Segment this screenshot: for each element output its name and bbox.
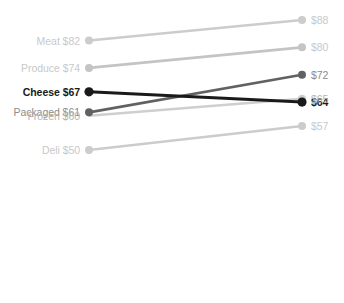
slope-line-meat[interactable] bbox=[89, 20, 302, 41]
slope-lines-layer bbox=[89, 20, 302, 150]
slope-dot-start-produce[interactable] bbox=[85, 64, 93, 72]
slope-label-left-cheese: Cheese $67 bbox=[23, 86, 80, 97]
slope-line-deli[interactable] bbox=[89, 126, 302, 150]
slope-dot-end-cheese[interactable] bbox=[297, 98, 306, 107]
slope-label-left-meat: Meat $82 bbox=[37, 35, 80, 46]
slope-dot-end-packaged[interactable] bbox=[298, 71, 306, 79]
slope-label-right-packaged: $72 bbox=[311, 69, 328, 80]
slope-dot-start-deli[interactable] bbox=[85, 146, 93, 154]
slope-chart: Meat $82$88Produce $74$80Cheese $67$64Pa… bbox=[0, 0, 344, 303]
slope-dot-end-produce[interactable] bbox=[298, 43, 306, 51]
slope-label-left-frozen: Frozen $60 bbox=[27, 110, 80, 121]
slope-label-right-meat: $88 bbox=[311, 15, 328, 26]
slope-dot-start-cheese[interactable] bbox=[84, 87, 93, 96]
slope-line-produce[interactable] bbox=[89, 47, 302, 68]
slope-dot-end-deli[interactable] bbox=[298, 122, 306, 130]
slope-label-left-produce: Produce $74 bbox=[21, 62, 80, 73]
slope-label-right-produce: $80 bbox=[311, 42, 328, 53]
slope-dot-end-meat[interactable] bbox=[298, 16, 306, 24]
slope-label-right-deli: $57 bbox=[311, 121, 328, 132]
slope-dot-start-packaged[interactable] bbox=[85, 108, 93, 116]
slope-label-left-deli: Deli $50 bbox=[42, 145, 80, 156]
slope-label-right-frozen: $65 bbox=[311, 93, 328, 104]
slope-dot-start-meat[interactable] bbox=[85, 37, 93, 45]
